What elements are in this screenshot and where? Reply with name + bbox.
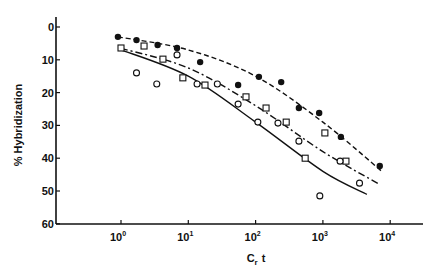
dashed-fit-curve bbox=[118, 37, 382, 171]
open-circle-marker bbox=[194, 81, 200, 87]
open-circle-marker bbox=[337, 158, 343, 164]
open-circle-marker bbox=[357, 180, 363, 186]
filled-circle-marker bbox=[338, 134, 344, 140]
y-tick-label: 10 bbox=[42, 54, 54, 66]
x-axis-label: Crt bbox=[247, 252, 266, 267]
open-circle-marker bbox=[154, 81, 160, 87]
filled-circle-marker bbox=[256, 74, 262, 80]
open-square-marker bbox=[160, 56, 166, 62]
solid-fit-curve bbox=[120, 49, 367, 194]
hybridization-chart: 0102030405060100101102103104 % Hybridiza… bbox=[0, 0, 436, 275]
open-square-marker bbox=[118, 45, 124, 51]
axis-labels: % Hybridization Crt bbox=[12, 83, 266, 267]
y-tick-label: 60 bbox=[42, 218, 54, 230]
y-tick-label: 20 bbox=[42, 87, 54, 99]
y-tick-label: 30 bbox=[42, 119, 54, 131]
y-tick-label: 50 bbox=[42, 185, 54, 197]
filled-circle-marker bbox=[154, 42, 160, 48]
x-tick-label: 102 bbox=[245, 230, 261, 243]
open-square-marker bbox=[283, 119, 289, 125]
open-circle-marker bbox=[255, 119, 261, 125]
open-square-marker bbox=[202, 82, 208, 88]
open-circle-marker bbox=[275, 120, 281, 126]
open-circle-marker bbox=[134, 70, 140, 76]
open-square-marker bbox=[141, 43, 147, 49]
x-tick-label: 101 bbox=[177, 230, 193, 243]
open-square-marker bbox=[243, 94, 249, 100]
open-circle-marker bbox=[174, 52, 180, 58]
open-circle-marker bbox=[317, 193, 323, 199]
filled-circle-marker bbox=[296, 105, 302, 111]
open-square-marker bbox=[263, 105, 269, 111]
y-tick-label: 40 bbox=[42, 152, 54, 164]
x-tick-label: 103 bbox=[312, 230, 328, 243]
data-points bbox=[115, 34, 383, 199]
open-square-marker bbox=[180, 75, 186, 81]
filled-circle-marker bbox=[235, 82, 241, 88]
axes: 0102030405060100101102103104 bbox=[42, 17, 423, 243]
fit-curves bbox=[118, 37, 382, 194]
x-tick-label: 100 bbox=[110, 230, 126, 243]
y-tick-label: 0 bbox=[48, 21, 54, 33]
open-square-marker bbox=[322, 130, 328, 136]
filled-circle-marker bbox=[197, 59, 203, 65]
y-axis-label: % Hybridization bbox=[12, 83, 24, 166]
open-square-marker bbox=[343, 158, 349, 164]
open-circle-marker bbox=[214, 81, 220, 87]
filled-circle-marker bbox=[278, 79, 284, 85]
open-circle-marker bbox=[235, 101, 241, 107]
open-circle-marker bbox=[296, 138, 302, 144]
filled-circle-marker bbox=[316, 110, 322, 116]
filled-circle-marker bbox=[115, 34, 121, 40]
open-square-marker bbox=[302, 155, 308, 161]
filled-circle-marker bbox=[133, 37, 139, 43]
filled-circle-marker bbox=[377, 163, 383, 169]
filled-circle-marker bbox=[174, 45, 180, 51]
x-tick-label: 104 bbox=[379, 230, 395, 243]
